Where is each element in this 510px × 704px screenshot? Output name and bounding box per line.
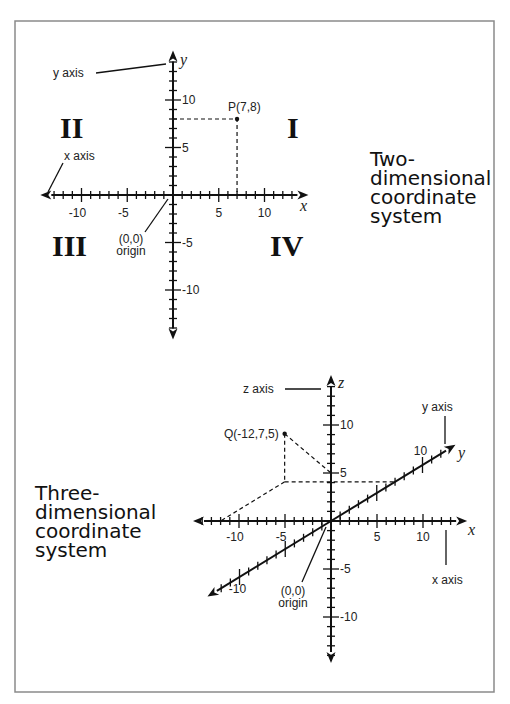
- 2d-x-tick-label: 10: [258, 206, 272, 220]
- 2d-x-tick-label: -5: [118, 206, 129, 220]
- 3d-origin-leader: [302, 527, 326, 582]
- 2d-y-tick-label: 10: [182, 93, 196, 107]
- 3d-point-q: Q(-12,7,5): [221, 427, 395, 521]
- 3d-y-tick-label: 10: [414, 444, 428, 458]
- 2d-y-tick-label: 5: [182, 141, 189, 155]
- 3d-x-tick-label: -10: [226, 530, 244, 544]
- 2d-point-projection: [173, 119, 237, 195]
- 2d-y-variable: y: [178, 51, 188, 69]
- 3d-z-variable: z: [337, 374, 345, 391]
- 3d-z-axis-negative-arrow-icon: [327, 652, 336, 663]
- 3d-point-label: Q(-12,7,5): [224, 427, 279, 441]
- 2d-x-axis-negative-arrow-icon: [40, 191, 51, 200]
- 3d-z-axis-label: z axis: [243, 382, 274, 396]
- 2d-y-axis-leader: [96, 64, 166, 73]
- 2d-origin-label: origin: [116, 244, 145, 258]
- 3d-title-line: system: [35, 538, 107, 562]
- 3d-z-axis-positive-arrow-icon: [327, 375, 336, 386]
- 2d-x-axis-leader: [48, 163, 63, 192]
- 3d-y-axis-positive-line: [331, 451, 446, 521]
- 2d-x-tick-label: 5: [215, 206, 222, 220]
- coordinate-systems-diagram: -10-5510105-5-10 P(7,8) IIIIIIIV y axis …: [0, 0, 510, 704]
- 3d-y-tick-label: -10: [229, 582, 247, 596]
- 2d-x-tick-label: -10: [69, 206, 87, 220]
- 3d-x-axis-label: x axis: [432, 573, 463, 587]
- 3d-y-axis-negative-arrow-icon: [207, 587, 219, 597]
- 2d-point-label: P(7,8): [228, 100, 261, 114]
- 2d-y-axis-negative-arrow-icon: [169, 328, 178, 339]
- diagram-frame: [15, 21, 494, 692]
- 2d-quadrant-labels: IIIIIIIV: [52, 111, 304, 262]
- 2d-x-variable: x: [299, 197, 307, 214]
- 2d-point-dot-icon: [235, 117, 239, 121]
- 2d-axes: [40, 51, 308, 340]
- 3d-y-axis-label: y axis: [422, 400, 453, 414]
- 3d-x-tick-label: -5: [276, 530, 287, 544]
- 3d-origin-label: origin: [278, 596, 307, 610]
- 3d-x-tick-label: 10: [416, 530, 430, 544]
- 2d-y-tick-label: -5: [182, 236, 193, 250]
- 3d-point-dot-icon: [282, 432, 286, 436]
- 3d-title: Three-dimensionalcoordinatesystem: [34, 481, 156, 562]
- 2d-x-axis-label: x axis: [64, 149, 95, 163]
- 2d-quadrant-ii: II: [60, 111, 83, 144]
- 3d-z-tick-label: -10: [340, 610, 358, 624]
- 2d-quadrant-i: I: [287, 111, 299, 144]
- 3d-annotations: z axis y axis x axis (0,0) origin z y x: [243, 374, 475, 610]
- 2d-y-axis-label: y axis: [53, 66, 84, 80]
- 2d-quadrant-iii: III: [52, 229, 87, 262]
- 2d-origin-leader: [145, 199, 168, 232]
- 2d-y-axis-positive-arrow-icon: [169, 51, 178, 62]
- two-dimensional-coordinate-system: -10-5510105-5-10 P(7,8) IIIIIIIV y axis …: [40, 51, 491, 340]
- 3d-y-variable: y: [456, 444, 466, 462]
- 2d-annotations: y axis x axis (0,0) origin y x: [48, 51, 307, 258]
- 3d-z-tick-label: -5: [340, 562, 351, 576]
- 2d-title-line: system: [370, 204, 442, 228]
- 3d-x-tick-label: 5: [374, 530, 381, 544]
- 2d-quadrant-iv: IV: [270, 229, 304, 262]
- 3d-x-axis-positive-arrow-icon: [456, 517, 467, 526]
- 3d-z-tick-label: 10: [340, 418, 354, 432]
- 3d-axes: [193, 375, 467, 663]
- 3d-x-variable: x: [467, 521, 475, 538]
- 2d-y-tick-label: -10: [182, 283, 200, 297]
- 3d-point-x-projection: [221, 482, 285, 521]
- 2d-title: Two-dimensionalcoordinatesystem: [369, 147, 491, 228]
- 3d-y-axis-positive-arrow-icon: [444, 445, 456, 455]
- three-dimensional-coordinate-system: -10-5510105-5-1010-10 Q(-12,7,5) z axis …: [34, 374, 475, 663]
- 3d-z-tick-label: 5: [340, 466, 347, 480]
- 3d-point-z-projection: [285, 434, 331, 473]
